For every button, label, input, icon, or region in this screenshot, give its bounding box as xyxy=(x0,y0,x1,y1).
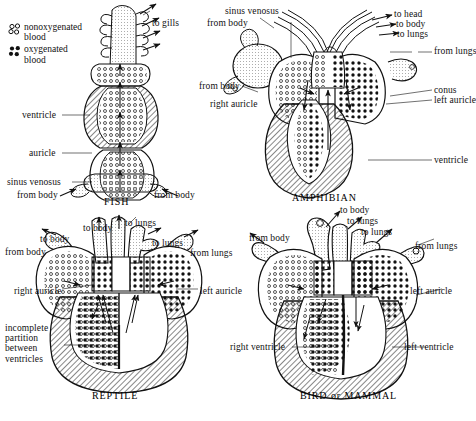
label-right-ventricle: right ventricle xyxy=(230,342,285,353)
label-from-lungs: from lungs xyxy=(190,248,232,259)
amphibian-ventricle xyxy=(265,100,352,198)
label-left-ventricle: left ventricle xyxy=(404,342,454,353)
label-to-body: to body xyxy=(396,19,425,30)
label-from-body-left: from body xyxy=(17,190,58,201)
caption-reptile: REPTILE xyxy=(92,390,138,401)
label-sinus-venosus: sinus venosus xyxy=(7,177,61,188)
amphibian-aortic-arches xyxy=(274,10,379,56)
reptile-ventricles xyxy=(50,293,188,393)
label-to-lungs: to lungs xyxy=(397,29,428,40)
complete-septum-line xyxy=(343,295,344,375)
label-auricle: auricle xyxy=(29,148,56,159)
label-from-lungs: from lungs xyxy=(434,46,476,57)
label-to-lungs-upper: to lungs xyxy=(347,216,378,227)
label-to-lungs-right: to lungs xyxy=(152,238,183,249)
amphibian-conus xyxy=(311,52,344,88)
label-from-lungs: from lungs xyxy=(415,241,457,252)
label-to-head: to head xyxy=(394,9,422,20)
bird-outflow-bases xyxy=(314,261,372,295)
label-from-body: from body xyxy=(5,247,46,258)
label-to-lungs-lower: to lungs xyxy=(361,227,392,238)
label-sinus-venosus: sinus venosus xyxy=(225,6,279,17)
panel-reptile: to body to lungs to body to lungs from b… xyxy=(0,205,238,421)
reptile-outflow-bases xyxy=(92,257,150,291)
caption-amphibian: AMPHIBIAN xyxy=(292,192,357,203)
label-from-body: from body xyxy=(249,233,290,244)
label-to-lungs-center: to lungs xyxy=(125,218,156,229)
label-to-body-left: to body xyxy=(40,234,69,245)
label-incomplete-partition: incomplete partition between ventricles xyxy=(5,323,67,364)
label-right-auricle: right auricle xyxy=(14,286,61,297)
label-to-gills: to gills xyxy=(152,18,179,29)
label-conus: conus xyxy=(434,85,457,96)
label-to-body: to body xyxy=(340,205,369,216)
label-from-body-lower: from body xyxy=(199,81,240,92)
label-from-body-right: from body xyxy=(154,190,195,201)
label-ventricle: ventricle xyxy=(434,155,468,166)
panel-bird: to body to lungs to lungs from body from… xyxy=(230,205,476,421)
label-ventricle: ventricle xyxy=(22,110,56,121)
caption-bird-mammal: BIRD or MAMMAL xyxy=(300,390,397,401)
panel-amphibian: sinus venosus from body from body right … xyxy=(200,0,476,210)
label-from-body-upper: from body xyxy=(207,18,248,29)
label-to-body-center: to body xyxy=(83,223,112,234)
fish-ventricle xyxy=(84,86,158,148)
label-right-auricle: right auricle xyxy=(210,99,257,110)
label-left-auricle: left auricle xyxy=(410,286,452,297)
label-left-auricle: left auricle xyxy=(434,95,476,106)
amphibian-pulmonary-vein xyxy=(388,59,417,81)
